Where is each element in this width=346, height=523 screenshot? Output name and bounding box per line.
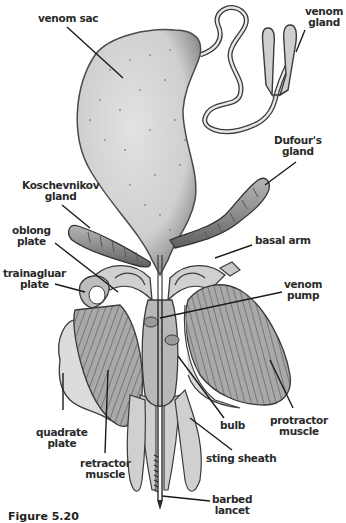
label-barbed-line2: lancet: [212, 505, 252, 516]
label-dufours-gland-line2: gland: [274, 146, 322, 157]
label-venom-pump-line2: pump: [284, 290, 322, 301]
label-sting-sheath: sting sheath: [206, 453, 276, 464]
label-triangular-plate: trainagluar plate: [3, 268, 66, 290]
label-barbed-lancet: barbed lancet: [212, 494, 252, 516]
venom-pump-valve-2: [165, 335, 179, 345]
label-venom-pump: venom pump: [284, 279, 322, 301]
label-triangular-line2: plate: [3, 279, 66, 290]
sting-sheath-right: [175, 390, 201, 491]
figure-caption: Figure 5.20: [8, 510, 79, 523]
label-protractor-line2: muscle: [270, 426, 328, 437]
label-venom-gland-line2: gland: [305, 17, 343, 28]
label-koschevnikov-gland: Koschevnikov gland: [22, 180, 99, 202]
sting-sheath: [140, 395, 180, 490]
venom-pump-valve-1: [144, 317, 158, 327]
label-quadrate-line2: plate: [36, 438, 88, 449]
label-bulb: bulb: [220, 420, 245, 431]
label-oblong-line2: plate: [12, 236, 51, 247]
label-venom-sac: venom sac: [38, 13, 98, 24]
venom-gland: [200, 8, 296, 132]
label-retractor-line2: muscle: [80, 469, 131, 480]
label-venom-gland: venom gland: [305, 6, 343, 28]
label-protractor-muscle: protractor muscle: [270, 415, 328, 437]
label-oblong-plate: oblong plate: [12, 225, 51, 247]
label-retractor-muscle: retractor muscle: [80, 458, 131, 480]
label-basal-arm: basal arm: [255, 235, 311, 246]
label-dufours-gland: Dufour's gland: [274, 135, 322, 157]
label-quadrate-plate: quadrate plate: [36, 427, 88, 449]
label-koschevnikov-line2: gland: [22, 191, 99, 202]
